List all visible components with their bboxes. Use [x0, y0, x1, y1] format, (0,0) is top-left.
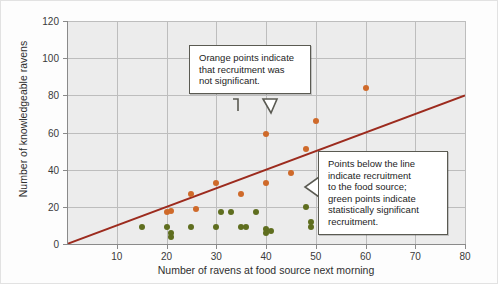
- gridline-horizontal: [67, 95, 465, 96]
- data-point: [253, 209, 259, 215]
- data-point: [303, 146, 309, 152]
- data-point: [193, 206, 199, 212]
- y-tick-label: 0: [1, 239, 59, 250]
- data-point: [213, 224, 219, 230]
- data-point: [238, 191, 244, 197]
- x-tick-mark: [465, 245, 466, 249]
- y-tick-label: 20: [1, 201, 59, 212]
- x-tick-label: 70: [410, 251, 421, 262]
- callout-orange-line-2: that recruitment was: [199, 64, 302, 76]
- x-tick-label: 40: [260, 251, 271, 262]
- data-point: [268, 228, 274, 234]
- y-tick-label: 100: [1, 53, 59, 64]
- callout-green: Points below the line indicate recruitme…: [318, 151, 448, 235]
- y-tick-mark: [63, 244, 67, 245]
- callout-green-line-4: green points indicate: [328, 193, 439, 205]
- callout-orange: Orange points indicate that recruitment …: [189, 45, 311, 94]
- x-tick-mark: [366, 245, 367, 249]
- x-tick-label: 30: [211, 251, 222, 262]
- x-axis-title: Number of ravens at food source next mor…: [67, 264, 465, 276]
- y-axis-title: Number of knowledgeable ravens: [17, 19, 29, 219]
- x-tick-label: 10: [111, 251, 122, 262]
- callout-green-line-2: indicate recruitment: [328, 170, 439, 182]
- gridline-horizontal: [67, 21, 465, 22]
- callout-green-line-6: recruitment.: [328, 216, 439, 228]
- callout-orange-line-1: Orange points indicate: [199, 52, 302, 64]
- x-tick-mark: [216, 245, 217, 249]
- data-point: [288, 170, 294, 176]
- y-tick-mark: [63, 21, 67, 22]
- data-point: [263, 180, 269, 186]
- y-tick-label: 80: [1, 90, 59, 101]
- y-tick-mark: [63, 207, 67, 208]
- callout-green-line-1: Points below the line: [328, 158, 439, 170]
- x-tick-mark: [415, 245, 416, 249]
- callout-green-line-5: statistically significant: [328, 204, 439, 216]
- y-axis-line: [67, 21, 68, 245]
- y-tick-mark: [63, 170, 67, 171]
- data-point: [363, 85, 369, 91]
- data-point: [303, 204, 309, 210]
- y-tick-mark: [63, 58, 67, 59]
- data-point: [168, 208, 174, 214]
- y-tick-label: 60: [1, 127, 59, 138]
- x-tick-label: 60: [360, 251, 371, 262]
- data-point: [188, 224, 194, 230]
- y-tick-mark: [63, 133, 67, 134]
- data-point: [228, 209, 234, 215]
- data-point: [168, 234, 174, 240]
- callout-green-line-3: to the food source;: [328, 181, 439, 193]
- x-tick-label: 50: [310, 251, 321, 262]
- chart-figure: 1020304050607080 020406080100120 Number …: [0, 0, 498, 284]
- data-point: [213, 180, 219, 186]
- x-tick-mark: [266, 245, 267, 249]
- data-point: [308, 224, 314, 230]
- x-tick-mark: [167, 245, 168, 249]
- data-point: [139, 224, 145, 230]
- gridline-vertical: [465, 21, 466, 244]
- x-tick-mark: [117, 245, 118, 249]
- data-point: [243, 224, 249, 230]
- x-tick-label: 20: [161, 251, 172, 262]
- x-tick-label: 80: [459, 251, 470, 262]
- data-point: [218, 209, 224, 215]
- y-tick-label: 40: [1, 164, 59, 175]
- y-tick-label: 120: [1, 16, 59, 27]
- data-point: [263, 131, 269, 137]
- data-point: [188, 191, 194, 197]
- y-tick-mark: [63, 95, 67, 96]
- x-tick-mark: [316, 245, 317, 249]
- callout-orange-line-3: not significant.: [199, 75, 302, 87]
- data-point: [313, 118, 319, 124]
